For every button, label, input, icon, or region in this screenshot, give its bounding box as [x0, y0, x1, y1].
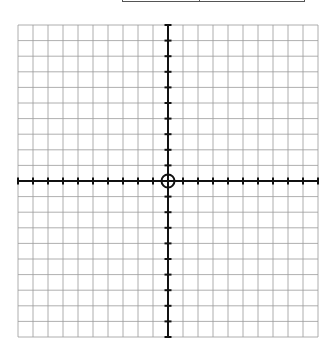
- coordinate-plane: [0, 0, 332, 355]
